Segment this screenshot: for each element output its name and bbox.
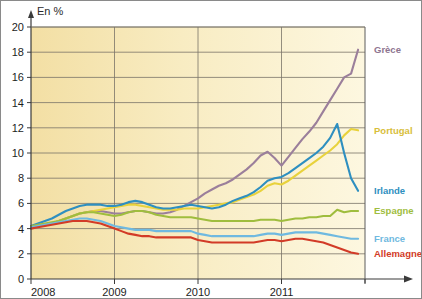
legend-label-portugal: Portugal xyxy=(374,125,413,136)
legend-label-france: France xyxy=(374,233,405,244)
y-tick-label: 14 xyxy=(12,97,24,109)
x-tick-label: 2010 xyxy=(186,286,210,298)
y-tick-label: 16 xyxy=(12,71,24,83)
y-tick-label: 6 xyxy=(18,197,24,209)
y-tick-label: 0 xyxy=(18,273,24,285)
x-tick-label: 2011 xyxy=(270,286,294,298)
y-tick-label: 18 xyxy=(12,46,24,58)
legend-label-espagne: Espagne xyxy=(374,205,414,216)
y-tick-label: 2 xyxy=(18,248,24,260)
legend-label-irlande: Irlande xyxy=(374,185,405,196)
unemployment-line-chart: 02468101214161820 2008200920102011 Grèce… xyxy=(0,0,422,299)
y-tick-label: 8 xyxy=(18,172,24,184)
legend: GrècePortugalIrlandeEspagneFranceAllemag… xyxy=(374,44,422,259)
y-tick-label: 4 xyxy=(18,223,24,235)
x-tick-label: 2009 xyxy=(102,286,126,298)
x-axis-tick-labels: 2008200920102011 xyxy=(31,279,365,298)
y-tick-label: 20 xyxy=(12,21,24,33)
y-axis-tick-labels: 02468101214161820 xyxy=(12,21,31,285)
legend-label-grce: Grèce xyxy=(374,44,401,55)
x-tick-label: 2008 xyxy=(31,286,55,298)
y-axis-title: En % xyxy=(37,5,64,17)
x-axis-arrow xyxy=(404,276,413,283)
chart-container: 02468101214161820 2008200920102011 Grèce… xyxy=(0,0,422,299)
legend-label-allemagne: Allemagne xyxy=(374,248,422,259)
y-tick-label: 10 xyxy=(12,147,24,159)
y-tick-label: 12 xyxy=(12,122,24,134)
y-axis-arrow xyxy=(28,10,34,18)
